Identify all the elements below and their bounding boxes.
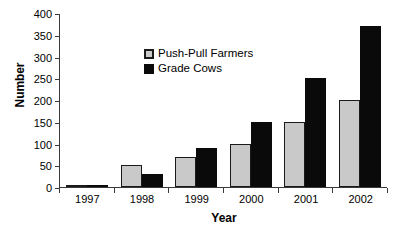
bar-group-1998 xyxy=(115,14,170,187)
y-tick-label: 250 xyxy=(34,74,52,85)
x-tick-label-1998: 1998 xyxy=(115,194,170,205)
bar-1999-push-pull-farmers[interactable] xyxy=(175,157,196,187)
y-tick-label: 200 xyxy=(34,96,52,107)
x-tick-mark xyxy=(332,188,333,193)
x-tick-label-2001: 2001 xyxy=(279,194,334,205)
bar-1997-push-pull-farmers[interactable] xyxy=(66,185,87,187)
y-axis-title: Number xyxy=(13,35,27,135)
x-tick-mark xyxy=(223,188,224,193)
gray-square-swatch xyxy=(144,49,154,59)
x-tick-mark xyxy=(387,188,388,193)
bar-chart: Number 050100150200250300350400 19971998… xyxy=(0,0,396,232)
x-tick-mark xyxy=(168,188,169,193)
x-tick-mark xyxy=(59,188,60,193)
y-tick-label: 400 xyxy=(34,9,52,20)
x-tick-label-2002: 2002 xyxy=(333,194,388,205)
y-tick-label: 50 xyxy=(40,161,52,172)
x-tick-label-1999: 1999 xyxy=(169,194,224,205)
bar-group-2001 xyxy=(278,14,333,187)
black-square-swatch xyxy=(144,64,154,74)
bar-2002-push-pull-farmers[interactable] xyxy=(339,100,360,187)
bar-2002-grade-cows[interactable] xyxy=(360,26,381,187)
x-tick-label-1997: 1997 xyxy=(60,194,115,205)
legend-item-grade-cows[interactable]: Grade Cows xyxy=(144,61,253,76)
bar-group-2000 xyxy=(224,14,279,187)
legend-item-push-pull-farmers[interactable]: Push-Pull Farmers xyxy=(144,46,253,61)
y-tick-label: 0 xyxy=(46,183,52,194)
bar-groups xyxy=(60,14,387,187)
bar-1999-grade-cows[interactable] xyxy=(196,148,217,187)
bar-1997-grade-cows[interactable] xyxy=(87,185,108,187)
x-tick-mark xyxy=(114,188,115,193)
legend-item-label: Push-Pull Farmers xyxy=(158,48,253,60)
legend-item-label: Grade Cows xyxy=(158,63,222,75)
bar-2000-grade-cows[interactable] xyxy=(251,122,272,187)
bar-1998-push-pull-farmers[interactable] xyxy=(121,165,142,187)
x-axis-tick-labels: 199719981999200020012002 xyxy=(60,194,388,205)
bar-2001-grade-cows[interactable] xyxy=(305,78,326,187)
y-tick-label: 100 xyxy=(34,139,52,150)
x-axis-title: Year xyxy=(60,212,388,224)
x-tick-mark xyxy=(278,188,279,193)
bar-group-2002 xyxy=(333,14,388,187)
chart-legend: Push-Pull FarmersGrade Cows xyxy=(144,46,253,76)
bar-1998-grade-cows[interactable] xyxy=(142,174,163,187)
y-tick-label: 350 xyxy=(34,30,52,41)
x-tick-label-2000: 2000 xyxy=(224,194,279,205)
bar-2000-push-pull-farmers[interactable] xyxy=(230,144,251,188)
plot-area: 050100150200250300350400 xyxy=(59,14,387,188)
bar-group-1999 xyxy=(169,14,224,187)
bar-group-1997 xyxy=(60,14,115,187)
y-tick-label: 300 xyxy=(34,52,52,63)
y-tick-label: 150 xyxy=(34,117,52,128)
bar-2001-push-pull-farmers[interactable] xyxy=(284,122,305,187)
